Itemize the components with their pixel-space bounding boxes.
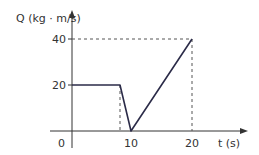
- x-tick-label-20: 20: [185, 138, 199, 149]
- x-axis-arrow-icon: [240, 128, 248, 134]
- y-tick-label-20: 20: [52, 80, 66, 91]
- y-axis-label: Q (kg · m/s): [16, 13, 81, 24]
- y-tick-label-40: 40: [52, 34, 66, 45]
- origin-label: 0: [58, 138, 65, 149]
- data-line: [72, 39, 192, 131]
- x-tick-label-10: 10: [124, 138, 138, 149]
- x-axis-label: t (s): [218, 138, 240, 149]
